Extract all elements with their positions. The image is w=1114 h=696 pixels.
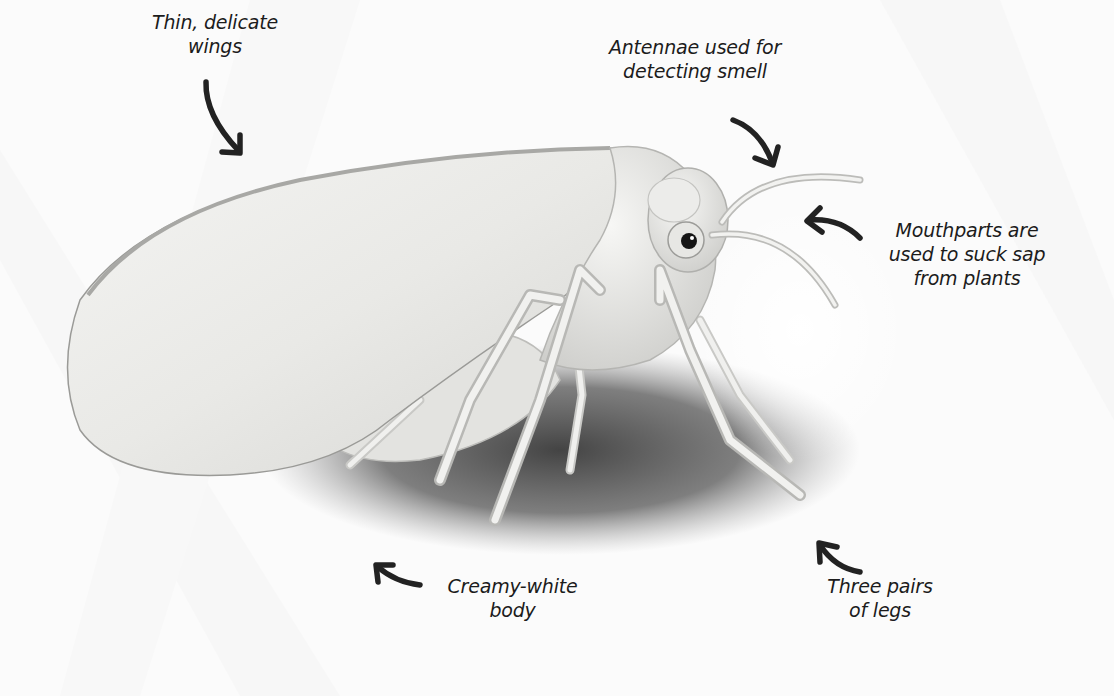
label-line: Thin, delicate [120,10,310,34]
arrow-up-left-icon [378,567,420,585]
label-line: Three pairs [800,574,960,598]
label-antennae: Antennae used for detecting smell [580,35,810,83]
label-line: Mouthparts are [862,218,1072,242]
whitefly-diagram: Thin, delicate wings Antennae used for d… [0,0,1114,696]
label-line: from plants [862,266,1072,290]
arrow-down-right-icon [733,120,772,162]
label-body: Creamy-white body [420,574,605,622]
label-line: Antennae used for [580,35,810,59]
label-line: wings [120,34,310,58]
label-line: used to suck sap [862,242,1072,266]
label-wings: Thin, delicate wings [120,10,310,58]
label-line: Creamy-white [420,574,605,598]
label-line: of legs [800,598,960,622]
label-legs: Three pairs of legs [800,574,960,622]
label-line: detecting smell [580,59,810,83]
arrow-up-left-icon [820,545,860,572]
label-mouthparts: Mouthparts are used to suck sap from pla… [862,218,1072,290]
label-line: body [420,598,605,622]
